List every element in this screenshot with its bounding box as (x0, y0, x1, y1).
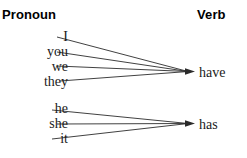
connector-i-have (57, 37, 188, 72)
verb-label-has: has (199, 117, 218, 132)
pronoun-group-singular: he she it (0, 101, 68, 146)
arrowhead-has (185, 120, 195, 127)
pronoun-item: he (0, 101, 68, 116)
pronoun-item: I (0, 29, 68, 44)
verb-label-have: have (199, 65, 225, 80)
pronoun-item: it (0, 131, 68, 146)
connector-he-has (52, 110, 188, 124)
connector-she-has (57, 124, 188, 125)
pronoun-item: she (0, 116, 68, 131)
pronoun-item: we (0, 59, 68, 74)
pronoun-item: you (0, 44, 68, 59)
pronoun-group-plural: I you we they (0, 29, 68, 89)
connector-they-have (60, 72, 188, 82)
pronoun-item: they (0, 74, 68, 89)
connector-it-has (52, 124, 188, 140)
arrowhead-have (185, 68, 195, 75)
diagram-canvas: Pronoun Verb I you we they he she it hav… (0, 0, 247, 158)
